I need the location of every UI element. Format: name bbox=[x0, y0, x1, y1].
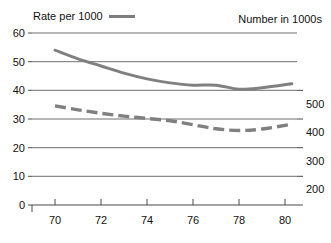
ytick-label-10: 10 bbox=[13, 170, 25, 182]
x-axis-labels: 70 72 74 76 78 80 bbox=[49, 214, 291, 226]
y2tick-label-500: 500 bbox=[306, 98, 324, 110]
xtick-label-72: 72 bbox=[95, 214, 107, 226]
ytick-label-40: 40 bbox=[13, 84, 25, 96]
xtick-label-76: 76 bbox=[187, 214, 199, 226]
chart-plot: 60 50 40 30 20 10 0 500 400 300 200 70 7… bbox=[0, 0, 331, 243]
ytick-label-60: 60 bbox=[13, 27, 25, 39]
xtick-label-70: 70 bbox=[49, 214, 61, 226]
ytick-label-30: 30 bbox=[13, 113, 25, 125]
y2tick-label-200: 200 bbox=[306, 183, 324, 195]
x-axis-ticks bbox=[55, 199, 285, 205]
series-line-rate-per-1000 bbox=[55, 50, 292, 89]
xtick-label-78: 78 bbox=[233, 214, 245, 226]
y-axis-left-ticks bbox=[28, 33, 32, 205]
y-axis-left-labels: 60 50 40 30 20 10 0 bbox=[13, 27, 25, 211]
y-axis-right-labels: 500 400 300 200 bbox=[306, 98, 324, 195]
ytick-label-20: 20 bbox=[13, 142, 25, 154]
series-line-number-in-1000s bbox=[55, 106, 292, 131]
y-axis-right-ticks bbox=[297, 90, 303, 205]
xtick-label-80: 80 bbox=[279, 214, 291, 226]
ytick-label-0: 0 bbox=[19, 199, 25, 211]
gridlines bbox=[32, 33, 297, 176]
chart-container: Rate per 1000 Number in 1000s bbox=[0, 0, 331, 243]
xtick-label-74: 74 bbox=[141, 214, 153, 226]
y2tick-label-400: 400 bbox=[306, 126, 324, 138]
y2tick-label-300: 300 bbox=[306, 155, 324, 167]
ytick-label-50: 50 bbox=[13, 56, 25, 68]
